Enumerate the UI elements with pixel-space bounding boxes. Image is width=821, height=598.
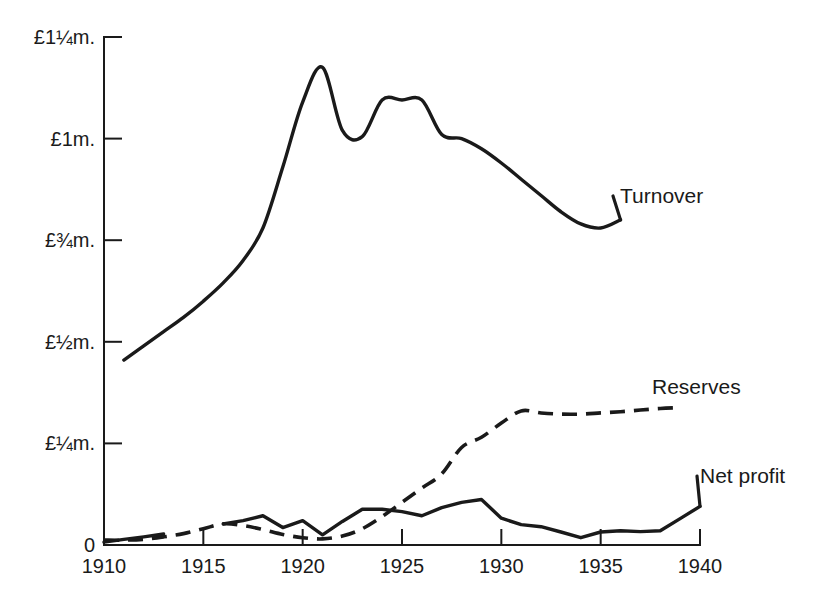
- x-tick-label-2: 1920: [280, 555, 325, 577]
- y-tick-label-4: £1m.: [51, 128, 95, 150]
- y-tick-label-0: 0: [84, 534, 95, 556]
- y-axis-ticks: [104, 37, 122, 443]
- y-tick-label-1: £¼m.: [45, 432, 95, 454]
- leader-lines-group: [613, 196, 700, 506]
- series-labels-group: Turnover Reserves Net profit: [620, 184, 785, 487]
- x-tick-label-4: 1930: [479, 555, 524, 577]
- series-line-turnover: [124, 67, 621, 360]
- series-line-reserves: [104, 408, 680, 541]
- x-tick-label-6: 1940: [678, 555, 723, 577]
- series-group: [104, 67, 700, 542]
- series-label-turnover: Turnover: [620, 184, 703, 207]
- x-axis-tick-labels: 1910191519201925193019351940: [82, 555, 723, 577]
- series-line-net-profit: [223, 499, 700, 537]
- chart-canvas: 0£¼m.£½m.£¾m.£1m.£1¼m. 19101915192019251…: [0, 0, 821, 598]
- chart-figure: 0£¼m.£½m.£¾m.£1m.£1¼m. 19101915192019251…: [0, 0, 821, 598]
- x-tick-label-0: 1910: [82, 555, 127, 577]
- axes-group: [104, 37, 700, 545]
- x-tick-label-3: 1925: [380, 555, 425, 577]
- series-label-net-profit: Net profit: [700, 464, 785, 487]
- series-label-reserves: Reserves: [652, 375, 741, 398]
- y-axis-tick-labels: 0£¼m.£½m.£¾m.£1m.£1¼m.: [34, 26, 95, 556]
- y-tick-label-5: £1¼m.: [34, 26, 95, 48]
- y-tick-label-3: £¾m.: [45, 229, 95, 251]
- x-tick-label-5: 1935: [578, 555, 623, 577]
- y-tick-label-2: £½m.: [45, 331, 95, 353]
- x-tick-label-1: 1915: [181, 555, 226, 577]
